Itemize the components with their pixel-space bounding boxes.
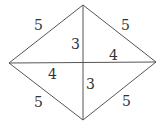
- horizontal-diagonal: [9, 62, 156, 63]
- edge-bottom-left: [9, 63, 83, 120]
- label-upper-diagonal: 3: [71, 36, 80, 52]
- label-lower-diagonal: 3: [86, 76, 95, 92]
- rhombus-diagram: 5 5 5 5 3 3 4 4: [0, 0, 157, 127]
- label-top-left: 5: [34, 17, 43, 33]
- label-left-diagonal: 4: [48, 66, 57, 82]
- label-bottom-left: 5: [34, 94, 43, 110]
- edge-top-left: [9, 5, 83, 63]
- label-top-right: 5: [121, 17, 130, 33]
- label-right-diagonal: 4: [109, 47, 118, 63]
- edge-top-right: [83, 5, 156, 62]
- label-bottom-right: 5: [122, 93, 131, 109]
